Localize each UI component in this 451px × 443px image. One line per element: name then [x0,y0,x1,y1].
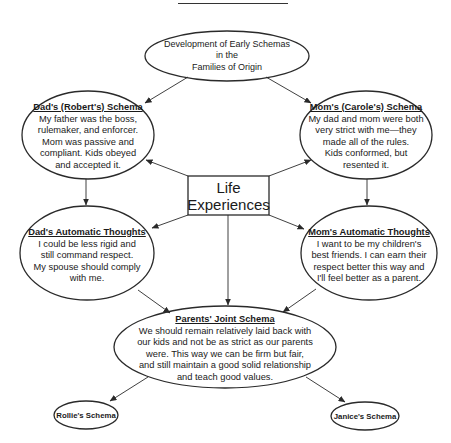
life-line-1: Life [216,179,240,196]
mom-schema-line: Kids conformed, but [325,148,408,160]
mom-thoughts-line: respect better this way and [313,262,424,274]
dad-thoughts-line: I could be less rigid and [38,239,136,251]
mom-thoughts-line: I want to be my children's [317,239,422,251]
life-line-2: Experiences [187,196,270,213]
root-line-2: in the [216,50,238,62]
dad-schema-title: Dad's (Robert's) Schema [33,101,142,113]
life-experiences-node: Life Experiences [188,176,269,215]
root-line-1: Development of Early Schemas [164,39,290,51]
rollie-schema-node: Rollie's Schema [54,402,118,428]
mom-schema-line: My dad and mom were both [308,114,423,126]
joint-schema-title: Parents' Joint Schema [175,313,274,325]
dad-thoughts-title: Dad's Automatic Thoughts [28,226,146,238]
dad-schema-line: and accepted it. [55,160,121,172]
dad-thoughts-line: with me. [70,273,105,285]
mom-schema-line: made all of the rules. [323,137,409,149]
dad-thoughts-line: My spouse should comply [34,262,141,274]
joint-schema-line: were. This way we can be firm but fair, [146,349,304,361]
joint-schema-line: We should remain relatively laid back wi… [139,326,311,338]
root-node: Development of Early Schemas in the Fami… [150,36,304,76]
janice-schema-label: Janice's Schema [334,412,397,421]
dad-thoughts-node: Dad's Automatic Thoughts I could be less… [22,222,152,288]
joint-schema-line: and still maintain a good solid relation… [139,360,311,372]
dad-schema-line: My father was the boss, [39,114,137,126]
root-line-3: Families of Origin [192,62,262,74]
mom-schema-node: Mom's (Carole's) Schema My dad and mom w… [302,98,430,174]
dad-schema-line: compliant. Kids obeyed [40,148,136,160]
dad-schema-line: Mom was passive and [42,137,134,149]
mom-schema-line: very strict with me—they [315,125,416,137]
dad-schema-node: Dad's (Robert's) Schema My father was th… [24,98,152,174]
mom-thoughts-title: Mom's Automatic Thoughts [308,226,430,238]
mom-thoughts-node: Mom's Automatic Thoughts I want to be my… [303,222,435,288]
dad-thoughts-line: still command respect. [41,250,133,262]
joint-schema-line: and teach good values. [177,372,273,384]
mom-schema-title: Mom's (Carole's) Schema [310,101,422,113]
mom-schema-line: resented it. [343,160,389,172]
rollie-schema-label: Rollie's Schema [56,411,116,420]
mom-thoughts-line: I'll feel better as a parent. [317,273,421,285]
joint-schema-line: our kids and not be as strict as our par… [137,337,313,349]
dad-schema-line: rulemaker, and enforcer. [38,125,138,137]
janice-schema-node: Janice's Schema [331,403,399,429]
mom-thoughts-line: best friends. I can earn their [311,250,426,262]
joint-schema-node: Parents' Joint Schema We should remain r… [120,314,330,382]
